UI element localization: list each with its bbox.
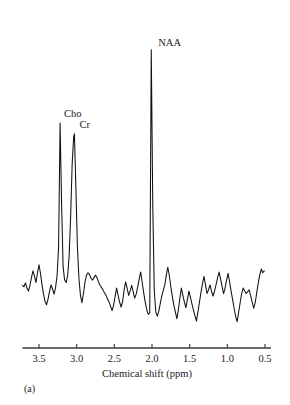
peak-label-naa: NAA [158,37,181,48]
spectrum-trace-group [22,50,264,322]
x-tick-label-1.5: 1.5 [183,353,196,364]
spectrum-plot: 3.53.02.52.01.51.00.5 ChoCrNAA Chemical … [0,0,290,405]
spectrum-trace [22,50,264,322]
mrs-spectrum-figure: 3.53.02.52.01.51.00.5 ChoCrNAA Chemical … [0,0,290,405]
peak-labels: ChoCrNAA [64,37,181,130]
panel-label: (a) [24,383,35,395]
x-tick-label-3.5: 3.5 [32,353,45,364]
x-tick-label-0.5: 0.5 [258,353,271,364]
x-tick-label-2.0: 2.0 [145,353,158,364]
x-tick-label-3.0: 3.0 [70,353,83,364]
x-axis-title: Chemical shift (ppm) [102,368,192,380]
x-axis-tick-labels: 3.53.02.52.01.51.00.5 [32,353,271,364]
peak-label-cr: Cr [79,119,90,130]
peak-label-cho: Cho [64,108,82,119]
x-tick-label-1.0: 1.0 [221,353,234,364]
x-axis: 3.53.02.52.01.51.00.5 [22,344,271,364]
x-tick-label-2.5: 2.5 [108,353,121,364]
